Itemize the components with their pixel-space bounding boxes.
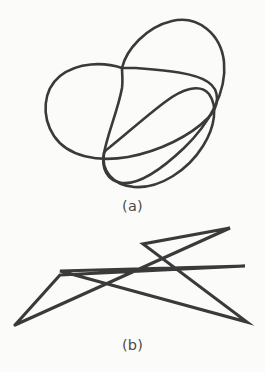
figure-page: (a) (b) xyxy=(0,0,265,372)
figure-a-caption: (a) xyxy=(0,199,265,214)
polyline-zigzag xyxy=(15,228,247,325)
figure-panel-b: (b) xyxy=(0,222,265,372)
figure-b-drawing xyxy=(0,222,265,334)
curve-left-ellipse xyxy=(46,64,217,159)
curve-lower-loop xyxy=(104,88,215,187)
figure-panel-a: (a) xyxy=(0,0,265,222)
figure-a-drawing xyxy=(0,0,265,196)
figure-b-caption: (b) xyxy=(0,338,265,353)
